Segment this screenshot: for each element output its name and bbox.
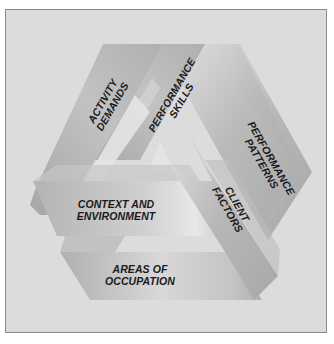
svg-text:OCCUPATION: OCCUPATION bbox=[105, 275, 175, 287]
svg-text:ENVIRONMENT: ENVIRONMENT bbox=[77, 210, 157, 222]
svg-text:CONTEXT AND: CONTEXT AND bbox=[78, 198, 155, 210]
label-areas-of-occupation: AREAS OF OCCUPATION bbox=[105, 263, 175, 287]
svg-text:AREAS OF: AREAS OF bbox=[111, 263, 168, 275]
label-context-environment: CONTEXT AND ENVIRONMENT bbox=[77, 198, 157, 222]
framework-diagram: ACTIVITY DEMANDS PERFORMANCE SKILLS PERF… bbox=[0, 0, 334, 344]
